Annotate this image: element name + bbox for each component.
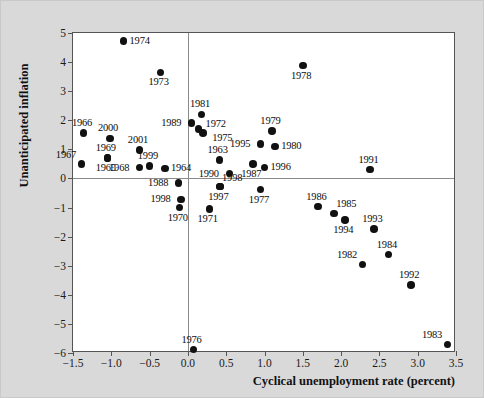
data-point[interactable] bbox=[216, 183, 224, 191]
data-point[interactable] bbox=[136, 164, 144, 172]
data-point[interactable] bbox=[261, 164, 269, 172]
x-tick bbox=[111, 351, 112, 356]
y-tick-label: −1 bbox=[54, 202, 66, 214]
data-point-label: 1992 bbox=[399, 269, 419, 280]
data-point-label: 1963 bbox=[208, 144, 228, 155]
data-point-label: 1966 bbox=[72, 117, 92, 128]
data-point[interactable] bbox=[161, 165, 169, 173]
x-axis-label-text: Cyclical unemployment rate (percent) bbox=[253, 374, 455, 388]
data-point-label: 1969 bbox=[96, 142, 116, 153]
zero-vertical-line bbox=[188, 33, 189, 351]
plot-area: 543210−1−2−3−4−5−6 −1.5−1.0−0.50.00.51.0… bbox=[72, 32, 455, 352]
data-point-label: 1981 bbox=[190, 98, 210, 109]
chart-figure: Unanticipated inflation 543210−1−2−3−4−5… bbox=[0, 0, 484, 398]
data-point[interactable] bbox=[257, 140, 265, 148]
x-tick bbox=[418, 351, 419, 356]
y-axis-label-text: Unanticipated inflation bbox=[18, 64, 33, 188]
data-point[interactable] bbox=[299, 62, 307, 70]
data-point-label: 1986 bbox=[306, 191, 326, 202]
data-point[interactable] bbox=[176, 204, 184, 212]
x-tick bbox=[226, 351, 227, 356]
data-point[interactable] bbox=[188, 119, 196, 127]
x-tick bbox=[379, 351, 380, 356]
data-point[interactable] bbox=[366, 166, 374, 174]
y-tick bbox=[68, 208, 73, 209]
x-tick bbox=[188, 351, 189, 356]
y-tick bbox=[68, 237, 73, 238]
data-point[interactable] bbox=[444, 341, 452, 349]
data-point[interactable] bbox=[106, 135, 114, 143]
data-point-label: 1998 bbox=[222, 172, 242, 183]
x-tick bbox=[341, 351, 342, 356]
data-point-label: 1978 bbox=[291, 70, 311, 81]
x-tick-label: 2.0 bbox=[334, 357, 348, 369]
data-point-label: 1972 bbox=[206, 118, 226, 129]
data-point[interactable] bbox=[198, 111, 206, 119]
data-point[interactable] bbox=[199, 129, 207, 137]
data-point-label: 1967 bbox=[56, 149, 76, 160]
x-tick bbox=[303, 351, 304, 356]
x-tick-label: 3.0 bbox=[411, 357, 425, 369]
data-point-label: 1973 bbox=[149, 76, 169, 87]
data-point[interactable] bbox=[314, 203, 322, 211]
data-point[interactable] bbox=[268, 127, 276, 135]
y-tick-label: 2 bbox=[60, 114, 66, 126]
data-point-label: 1968 bbox=[109, 162, 129, 173]
data-point[interactable] bbox=[175, 179, 183, 187]
data-point[interactable] bbox=[385, 251, 393, 259]
data-point-label: 1971 bbox=[198, 213, 218, 224]
x-tick bbox=[73, 351, 74, 356]
data-point[interactable] bbox=[157, 69, 165, 77]
data-point-label: 1999 bbox=[138, 150, 158, 161]
data-point-label: 1991 bbox=[358, 154, 378, 165]
data-point-label: 1988 bbox=[148, 177, 168, 188]
data-point[interactable] bbox=[330, 210, 338, 218]
data-point[interactable] bbox=[359, 261, 367, 269]
y-tick bbox=[68, 91, 73, 92]
data-point[interactable] bbox=[407, 281, 415, 289]
data-point[interactable] bbox=[206, 205, 214, 213]
data-point[interactable] bbox=[120, 37, 128, 45]
y-tick-label: 3 bbox=[60, 85, 66, 97]
y-tick bbox=[68, 178, 73, 179]
data-point[interactable] bbox=[271, 143, 279, 151]
data-point[interactable] bbox=[257, 186, 265, 194]
x-tick bbox=[265, 351, 266, 356]
data-point[interactable] bbox=[341, 216, 349, 224]
y-tick bbox=[68, 33, 73, 34]
data-point[interactable] bbox=[177, 196, 185, 204]
data-point-label: 2001 bbox=[128, 134, 148, 145]
y-tick bbox=[68, 62, 73, 63]
y-tick-label: −2 bbox=[54, 231, 66, 243]
y-tick-label: −4 bbox=[54, 289, 66, 301]
data-point[interactable] bbox=[190, 346, 198, 354]
data-point-label: 1970 bbox=[168, 212, 188, 223]
data-point-label: 1994 bbox=[333, 224, 353, 235]
y-tick-label: 0 bbox=[60, 172, 66, 184]
y-tick-label: −3 bbox=[54, 260, 66, 272]
data-point-label: 1964 bbox=[171, 162, 191, 173]
y-tick bbox=[68, 295, 73, 296]
data-point[interactable] bbox=[249, 160, 257, 168]
y-tick bbox=[68, 266, 73, 267]
data-point-label: 1982 bbox=[337, 249, 357, 260]
x-tick-label: 2.5 bbox=[372, 357, 386, 369]
x-tick-label: 1.5 bbox=[296, 357, 310, 369]
data-point-label: 1987 bbox=[241, 168, 261, 179]
data-point-label: 1998 bbox=[150, 193, 170, 204]
data-point[interactable] bbox=[80, 129, 88, 137]
data-point[interactable] bbox=[370, 225, 378, 233]
x-tick-label: 1.0 bbox=[257, 357, 271, 369]
data-point[interactable] bbox=[78, 160, 86, 168]
data-point-label: 1990 bbox=[199, 168, 219, 179]
x-tick-label: 0.0 bbox=[181, 357, 195, 369]
data-point-label: 1984 bbox=[377, 239, 397, 250]
y-tick-label: −5 bbox=[54, 318, 66, 330]
data-point-label: 1983 bbox=[422, 329, 442, 340]
data-point[interactable] bbox=[146, 162, 154, 170]
data-point[interactable] bbox=[216, 156, 224, 164]
data-point-label: 2000 bbox=[98, 122, 118, 133]
data-point-label: 1976 bbox=[181, 334, 201, 345]
y-tick-label: 4 bbox=[60, 56, 66, 68]
data-point-label: 1993 bbox=[362, 213, 382, 224]
